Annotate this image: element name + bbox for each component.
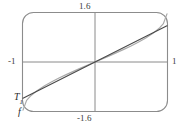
plot-canvas [0, 0, 184, 131]
x-min-label: -1 [8, 56, 16, 66]
graph-figure: 1.6 -1.6 -1 1 T1 f [0, 0, 184, 131]
y-min-label: -1.6 [77, 113, 92, 123]
t1-label-base: T [14, 91, 20, 102]
y-max-label: 1.6 [79, 1, 91, 11]
f-curve-label: f [18, 107, 21, 117]
t1-label-subscript: 1 [20, 98, 23, 105]
x-max-label: 1 [172, 56, 177, 66]
t1-curve-label: T1 [14, 92, 23, 106]
